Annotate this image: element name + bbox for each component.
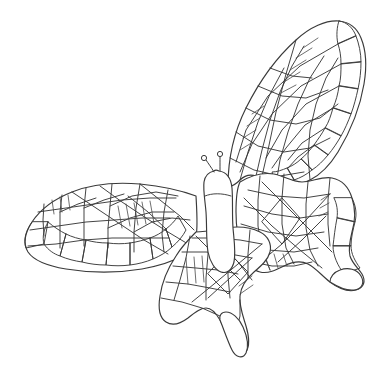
antennae [201,151,222,172]
right-forewing-outline [228,21,366,186]
right-forewing [228,21,366,186]
left-forewing [25,183,197,272]
butterfly-illustration: Butterfly Line Drawing [0,0,392,378]
antenna-left-club[interactable] [201,155,206,160]
drawing-canvas: Butterfly Line Drawing [0,0,392,378]
antenna-right-club[interactable] [217,151,222,156]
antenna-left[interactable] [206,160,214,172]
